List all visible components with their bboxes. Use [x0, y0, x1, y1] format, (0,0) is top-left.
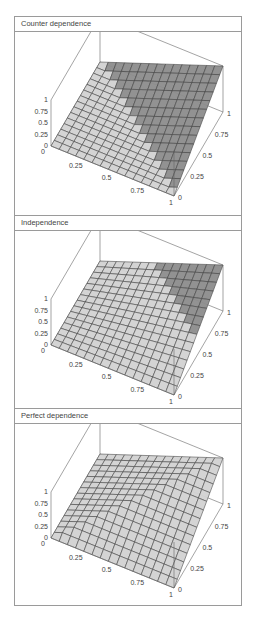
- x-tick-label: 0.75: [130, 386, 144, 393]
- y-tick-label: 0: [178, 586, 182, 593]
- x-tick-label: 0.5: [102, 373, 112, 380]
- z-tick-label: 0.75: [34, 108, 48, 115]
- panel-independence: Independence 00.250.50.75100.250.50.7510…: [15, 215, 241, 408]
- x-tick-label: 0.75: [130, 187, 144, 194]
- panel-title: Counter dependence: [15, 17, 241, 32]
- y-tick-label: 0: [178, 393, 182, 400]
- z-tick-label: 0.5: [38, 318, 48, 325]
- x-tick-label: 0: [41, 540, 45, 547]
- x-tick-label: 0: [41, 347, 45, 354]
- surface-plot: 00.250.50.75100.250.50.75100.250.50.751: [15, 424, 241, 606]
- x-tick-label: 0.25: [69, 162, 83, 169]
- x-tick-label: 0.25: [69, 361, 83, 368]
- z-tick-label: 0.25: [34, 330, 48, 337]
- y-tick-label: 0.25: [190, 372, 204, 379]
- surface-plot: 00.250.50.75100.250.50.75100.250.50.751: [15, 231, 241, 413]
- x-tick-label: 0.25: [69, 554, 83, 561]
- box-edge: [100, 231, 223, 265]
- x-tick-label: 0.5: [102, 174, 112, 181]
- z-tick-label: 1: [44, 96, 48, 103]
- y-tick-label: 0.75: [215, 523, 229, 530]
- x-tick-label: 1: [169, 199, 173, 206]
- x-tick-label: 1: [169, 398, 173, 405]
- z-tick-label: 0.75: [34, 500, 48, 507]
- x-tick-label: 1: [169, 591, 173, 598]
- z-tick-label: 0.25: [34, 523, 48, 530]
- y-tick-label: 1: [227, 502, 231, 509]
- y-tick-label: 1: [227, 110, 231, 117]
- y-tick-label: 1: [227, 309, 231, 316]
- y-tick-label: 0.5: [203, 544, 213, 551]
- panel-counter-dependence: Counter dependence 00.250.50.75100.250.5…: [15, 17, 241, 215]
- panel-perfect-dependence: Perfect dependence 00.250.50.75100.250.5…: [15, 408, 241, 605]
- y-tick-label: 0: [178, 194, 182, 201]
- box-edge: [100, 32, 223, 66]
- z-tick-label: 1: [44, 295, 48, 302]
- x-tick-label: 0.5: [102, 566, 112, 573]
- box-edge: [100, 424, 223, 458]
- y-tick-label: 0.75: [215, 131, 229, 138]
- y-tick-label: 0.25: [190, 173, 204, 180]
- x-tick-label: 0: [41, 148, 45, 155]
- z-tick-label: 0.5: [38, 119, 48, 126]
- z-tick-label: 0.5: [38, 511, 48, 518]
- surface-plot: 00.250.50.75100.250.50.75100.250.50.751: [15, 32, 241, 214]
- panel-title: Independence: [15, 216, 241, 231]
- z-tick-label: 0.25: [34, 131, 48, 138]
- z-tick-label: 0.75: [34, 307, 48, 314]
- y-tick-label: 0.75: [215, 330, 229, 337]
- y-tick-label: 0.25: [190, 565, 204, 572]
- figure-frame: Counter dependence 00.250.50.75100.250.5…: [14, 16, 242, 606]
- y-tick-label: 0.5: [203, 351, 213, 358]
- panel-title: Perfect dependence: [15, 409, 241, 424]
- y-tick-label: 0.5: [203, 152, 213, 159]
- x-tick-label: 0.75: [130, 579, 144, 586]
- z-tick-label: 1: [44, 488, 48, 495]
